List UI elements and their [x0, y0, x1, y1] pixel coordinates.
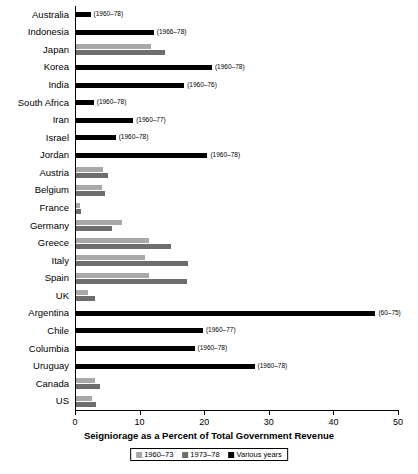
- bar: [75, 244, 171, 249]
- bar: [75, 226, 112, 231]
- legend-item-various-years: Various years: [229, 450, 282, 459]
- x-tick-label-20: 20: [189, 417, 219, 427]
- category-label: Korea: [44, 61, 69, 72]
- bar: [75, 44, 151, 49]
- category-label: Uruguay: [33, 360, 69, 371]
- x-tick-0: [75, 410, 76, 415]
- bar-annotation: (1960–78): [198, 345, 228, 351]
- bar: [75, 296, 95, 301]
- bar-annotation: (1960–78): [97, 99, 127, 105]
- bar: [75, 153, 207, 158]
- bar: [75, 396, 92, 401]
- bar: [75, 50, 165, 55]
- bar-annotation: (1960–77): [136, 117, 166, 123]
- bar-annotation: (1960–78): [215, 64, 245, 70]
- plot-area: (1960–78)(1966–78)(1960–78)(1960–76)(196…: [75, 6, 398, 410]
- category-label: Australia: [32, 9, 69, 20]
- bar: [75, 135, 116, 140]
- bar: [75, 238, 149, 243]
- bar: [75, 328, 203, 333]
- category-label: Chile: [47, 325, 69, 336]
- category-label: Indonesia: [28, 26, 69, 37]
- bar: [75, 384, 100, 389]
- bar: [75, 30, 154, 35]
- legend-label-various-years: Various years: [237, 450, 282, 459]
- bar: [75, 261, 188, 266]
- bar: [75, 255, 145, 260]
- bar: [75, 346, 195, 351]
- x-tick-label-10: 10: [125, 417, 155, 427]
- x-tick-10: [140, 410, 141, 415]
- category-label: Greece: [38, 237, 69, 248]
- category-label: South Africa: [18, 97, 69, 108]
- x-tick-40: [333, 410, 334, 415]
- category-label: Spain: [45, 272, 69, 283]
- category-label: US: [56, 395, 69, 406]
- bar: [75, 311, 375, 316]
- bar: [75, 173, 108, 178]
- category-label: Iran: [53, 114, 69, 125]
- bar: [75, 402, 96, 407]
- category-labels: AustraliaIndonesiaJapanKoreaIndiaSouth A…: [0, 6, 72, 410]
- legend-swatch-icon-1960-73: [136, 452, 142, 458]
- bar-annotation: (1960–78): [119, 134, 149, 140]
- x-tick-label-40: 40: [318, 417, 348, 427]
- category-label: Israel: [46, 132, 69, 143]
- category-label: Columbia: [29, 343, 69, 354]
- category-label: Germany: [30, 220, 69, 231]
- category-label: Austria: [39, 167, 69, 178]
- x-tick-label-0: 0: [60, 417, 90, 427]
- bar: [75, 12, 91, 17]
- bar-annotation: (60–75): [378, 310, 400, 316]
- y-axis-line: [75, 6, 76, 410]
- legend-swatch-icon-various-years: [229, 452, 235, 458]
- x-axis-title: Seigniorage as a Percent of Total Govern…: [0, 430, 418, 441]
- bar-annotation: (1960–78): [94, 11, 124, 17]
- bar-annotation: (1960–78): [258, 363, 288, 369]
- bar: [75, 290, 88, 295]
- bar-annotation: (1960–78): [210, 152, 240, 158]
- bar: [75, 364, 255, 369]
- bar: [75, 273, 149, 278]
- bar-annotation: (1960–77): [206, 327, 236, 333]
- category-label: UK: [56, 290, 69, 301]
- category-label: Japan: [43, 44, 69, 55]
- category-label: Italy: [52, 255, 69, 266]
- bar: [75, 118, 133, 123]
- bar: [75, 279, 187, 284]
- bar: [75, 65, 212, 70]
- legend-item-1960-73: 1960–73: [136, 450, 173, 459]
- x-tick-30: [269, 410, 270, 415]
- category-label: India: [48, 79, 69, 90]
- legend-label-1973-78: 1973–78: [190, 450, 219, 459]
- bar: [75, 191, 105, 196]
- seigniorage-bar-chart: AustraliaIndonesiaJapanKoreaIndiaSouth A…: [0, 0, 418, 474]
- x-axis-line: [75, 410, 399, 411]
- x-tick-50: [398, 410, 399, 415]
- category-label: France: [39, 202, 69, 213]
- bar: [75, 167, 103, 172]
- bar-annotation: (1960–76): [187, 82, 217, 88]
- category-label: Argentina: [28, 307, 69, 318]
- bar: [75, 378, 95, 383]
- x-tick-label-50: 50: [383, 417, 413, 427]
- bar-annotation: (1966–78): [157, 29, 187, 35]
- category-label: Jordan: [40, 149, 69, 160]
- category-label: Canada: [36, 378, 69, 389]
- bar: [75, 220, 122, 225]
- bar: [75, 100, 94, 105]
- bar: [75, 185, 102, 190]
- legend: 1960–73 1973–78 Various years: [130, 448, 288, 461]
- legend-item-1973-78: 1973–78: [182, 450, 219, 459]
- x-tick-label-30: 30: [254, 417, 284, 427]
- legend-label-1960-73: 1960–73: [144, 450, 173, 459]
- bar: [75, 83, 184, 88]
- category-label: Belgium: [35, 184, 69, 195]
- x-tick-20: [204, 410, 205, 415]
- legend-swatch-icon-1973-78: [182, 452, 188, 458]
